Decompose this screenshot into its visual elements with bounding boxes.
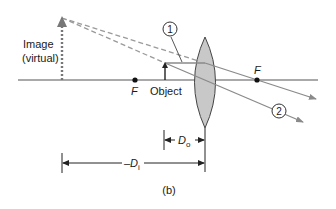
focal-label-left: F (131, 85, 139, 97)
thin-lens-virtual-image-diagram: Image (virtual) F F Object 1 2 Do –Di (b… (0, 0, 336, 209)
figure-caption: (b) (162, 184, 175, 196)
object-label: Object (150, 85, 182, 97)
di-label: –Di (123, 157, 140, 172)
image-virtual-label: (virtual) (22, 52, 59, 64)
focal-point-left (132, 77, 137, 82)
converging-lens (195, 37, 216, 128)
dashed-ray-2-extension (62, 18, 165, 63)
dashed-ray-1-extension (62, 18, 205, 63)
do-label: Do (178, 134, 191, 149)
ray-1-number: 1 (167, 24, 173, 35)
focal-point-right (254, 77, 259, 82)
image-arrow-head (57, 16, 67, 27)
focal-label-right: F (254, 64, 262, 76)
ray-2-number: 2 (276, 106, 282, 117)
image-label: Image (23, 38, 54, 50)
ray-1-callout-leader (171, 37, 182, 62)
